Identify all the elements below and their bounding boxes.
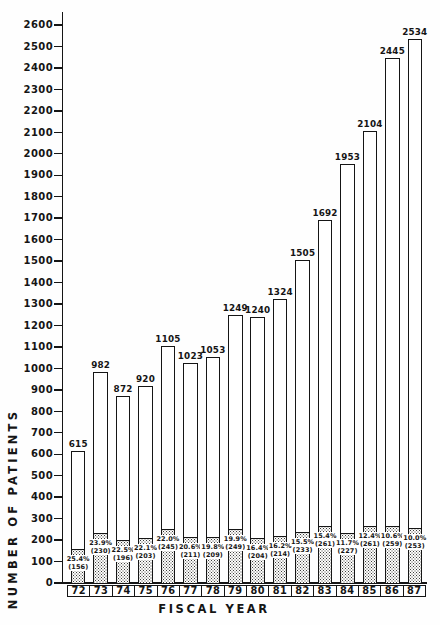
y-tick-label-1000: 1000 [10, 363, 53, 374]
bar-82-total-label: 1505 [283, 248, 323, 258]
y-tick-2400 [54, 67, 62, 68]
x-category-79: 79 [224, 586, 246, 597]
bar-87-pct-label: 10.0%(253) [398, 531, 432, 547]
x-category-75: 75 [134, 586, 156, 597]
y-tick-label-800: 800 [10, 406, 53, 417]
y-tick-700 [54, 432, 62, 433]
x-category-83: 83 [313, 586, 335, 597]
y-tick-1200 [54, 325, 62, 326]
y-tick-300 [54, 518, 62, 519]
y-tick-2300 [54, 89, 62, 90]
y-tick-1000 [54, 368, 62, 369]
bar-76-total-label: 1105 [148, 334, 188, 344]
y-tick-200 [54, 539, 62, 540]
y-tick-400 [54, 496, 62, 497]
patients-by-fiscal-year-chart: NUMBER OF PATIENTS 010020030040050060070… [0, 0, 440, 625]
x-category-81: 81 [268, 586, 290, 597]
y-tick-label-1500: 1500 [10, 255, 53, 266]
bar-72-total-label: 615 [58, 439, 98, 449]
bar-87 [408, 39, 423, 584]
y-tick-label-500: 500 [10, 470, 53, 481]
y-tick-500 [54, 475, 62, 476]
y-tick-1300 [54, 303, 62, 304]
y-tick-1500 [54, 260, 62, 261]
y-tick-2200 [54, 110, 62, 111]
y-tick-2500 [54, 46, 62, 47]
bar-74-total-label: 872 [103, 384, 143, 394]
bar-86-total-label: 2445 [372, 46, 412, 56]
y-tick-1900 [54, 175, 62, 176]
bar-86 [385, 58, 400, 584]
y-tick-label-1700: 1700 [10, 212, 53, 223]
y-tick-label-600: 600 [10, 448, 53, 459]
bar-84-total-label: 1953 [328, 152, 368, 162]
y-tick-label-2100: 2100 [10, 127, 53, 138]
y-tick-label-100: 100 [10, 556, 53, 567]
x-category-74: 74 [112, 586, 134, 597]
y-tick-label-300: 300 [10, 513, 53, 524]
y-tick-0 [54, 582, 62, 583]
bar-84 [340, 164, 355, 584]
y-tick-1400 [54, 282, 62, 283]
y-tick-1800 [54, 196, 62, 197]
y-tick-label-2200: 2200 [10, 105, 53, 116]
x-category-85: 85 [358, 586, 380, 597]
y-tick-label-1600: 1600 [10, 234, 53, 245]
bar-81-total-label: 1324 [260, 287, 300, 297]
x-category-82: 82 [291, 586, 313, 597]
y-tick-1600 [54, 239, 62, 240]
y-tick-label-1300: 1300 [10, 298, 53, 309]
bar-83-total-label: 1692 [305, 208, 345, 218]
y-tick-1700 [54, 217, 62, 218]
y-tick-label-200: 200 [10, 534, 53, 545]
x-axis-category-row: 72737475767778798081828384858687 [67, 585, 426, 598]
y-tick-2000 [54, 153, 62, 154]
x-category-78: 78 [201, 586, 223, 597]
x-category-84: 84 [336, 586, 358, 597]
y-tick-label-1900: 1900 [10, 169, 53, 180]
y-axis-line [62, 12, 64, 584]
y-tick-label-1800: 1800 [10, 191, 53, 202]
y-tick-label-0: 0 [10, 577, 53, 588]
bar-85 [363, 131, 378, 584]
y-tick-label-1400: 1400 [10, 277, 53, 288]
bar-78-total-label: 1053 [193, 345, 233, 355]
bar-87-total-label: 2534 [395, 27, 435, 37]
x-category-72: 72 [68, 586, 89, 597]
y-tick-600 [54, 454, 62, 455]
y-tick-2100 [54, 132, 62, 133]
y-tick-label-2500: 2500 [10, 41, 53, 52]
x-category-80: 80 [246, 586, 268, 597]
y-tick-label-700: 700 [10, 427, 53, 438]
x-category-73: 73 [89, 586, 111, 597]
x-category-77: 77 [179, 586, 201, 597]
bar-85-total-label: 2104 [350, 119, 390, 129]
y-tick-label-2400: 2400 [10, 62, 53, 73]
bar-80-total-label: 1240 [238, 305, 278, 315]
y-tick-label-2300: 2300 [10, 84, 53, 95]
x-axis-title: FISCAL YEAR [67, 602, 361, 616]
x-category-76: 76 [157, 586, 179, 597]
y-tick-label-2600: 2600 [10, 19, 53, 30]
bar-75-total-label: 920 [126, 374, 166, 384]
x-category-86: 86 [380, 586, 402, 597]
y-tick-label-1200: 1200 [10, 320, 53, 331]
y-tick-label-900: 900 [10, 384, 53, 395]
y-tick-1100 [54, 346, 62, 347]
x-category-87: 87 [403, 586, 425, 597]
y-tick-label-2000: 2000 [10, 148, 53, 159]
y-tick-2600 [54, 24, 62, 25]
y-tick-label-400: 400 [10, 491, 53, 502]
y-tick-800 [54, 411, 62, 412]
y-tick-900 [54, 389, 62, 390]
bar-73-total-label: 982 [81, 360, 121, 370]
y-tick-label-1100: 1100 [10, 341, 53, 352]
